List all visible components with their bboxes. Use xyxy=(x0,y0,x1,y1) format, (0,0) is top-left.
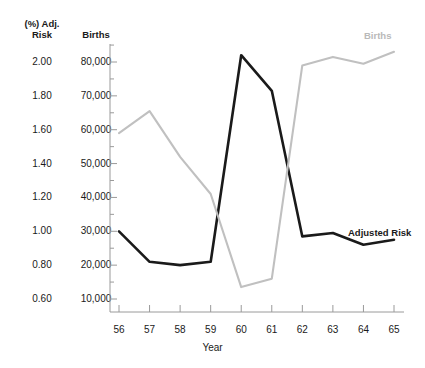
series-label-risk: Adjusted Risk xyxy=(348,227,411,238)
series-label-births: Births xyxy=(364,30,391,41)
chart-figure: (%) Adj. Risk Births 2.001.801.601.401.2… xyxy=(0,0,425,368)
data-series xyxy=(119,52,394,287)
x-axis-label: Year xyxy=(0,342,425,353)
series-line-births xyxy=(119,52,394,287)
axis-lines xyxy=(110,44,404,312)
plot-area xyxy=(0,0,425,368)
